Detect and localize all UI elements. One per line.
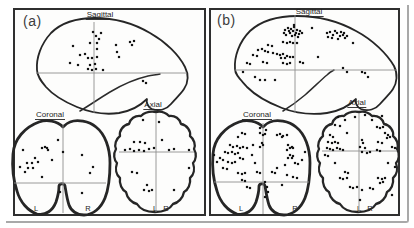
activation-focus-dot (332, 149, 334, 151)
activation-focus-dot (286, 174, 288, 176)
activation-focus-dot (362, 142, 364, 144)
activation-focus-dot (334, 30, 336, 32)
activation-focus-dot (31, 162, 33, 164)
activation-focus-dot (72, 45, 74, 47)
activation-focus-dot (266, 62, 268, 64)
activation-focus-dot (259, 146, 261, 148)
activation-focus-dot (77, 64, 79, 66)
activation-focus-dot (361, 139, 363, 141)
activation-focus-dot (27, 167, 29, 169)
sagittal-brain-outline (37, 18, 188, 114)
activation-focus-dot (95, 68, 97, 70)
activation-focus-dot (264, 181, 266, 183)
activation-focus-dot (293, 26, 295, 28)
activation-focus-dot (387, 162, 389, 164)
activation-focus-dot (271, 45, 273, 47)
activation-focus-dot (287, 27, 289, 29)
activation-focus-dot (359, 199, 361, 201)
activation-focus-dot (41, 147, 43, 149)
activation-focus-dot (144, 142, 146, 144)
activation-focus-dot (143, 150, 145, 152)
activation-focus-dot (299, 61, 301, 63)
activation-focus-dot (329, 31, 331, 33)
activation-focus-dot (94, 63, 96, 65)
activation-focus-dot (292, 30, 294, 32)
activation-focus-dot (283, 32, 285, 34)
activation-focus-dot (344, 171, 346, 173)
activation-focus-dot (384, 177, 386, 179)
activation-focus-dot (391, 146, 393, 148)
activation-focus-dot (301, 32, 303, 34)
activation-focus-dot (289, 147, 291, 149)
activation-focus-dot (344, 37, 346, 39)
activation-focus-dot (332, 136, 334, 138)
activation-focus-dot (340, 31, 342, 33)
activation-focus-dot (138, 149, 140, 151)
activation-focus-dot (292, 42, 294, 44)
activation-focus-dot (354, 116, 356, 118)
activation-focus-dot (287, 144, 289, 146)
activation-focus-dot (242, 158, 244, 160)
activation-focus-dot (146, 184, 148, 186)
activation-focus-dot (259, 172, 261, 174)
activation-focus-dot (280, 57, 282, 59)
activation-focus-dot (161, 139, 163, 141)
activation-focus-dot (334, 124, 336, 126)
activation-focus-dot (288, 30, 290, 32)
activation-focus-dot (98, 38, 100, 40)
activation-focus-dot (286, 149, 288, 151)
activation-focus-dot (224, 151, 226, 153)
activation-focus-dot (22, 149, 24, 151)
panel-b-sagittal-dots (235, 15, 397, 113)
activation-focus-dot (394, 166, 396, 168)
activation-focus-dot (237, 136, 239, 138)
activation-focus-dot (389, 136, 391, 138)
activation-focus-dot (311, 27, 313, 29)
activation-focus-dot (279, 54, 281, 56)
activation-focus-dot (334, 162, 336, 164)
activation-focus-dot (143, 189, 145, 191)
activation-focus-dot (293, 24, 295, 26)
activation-focus-dot (188, 149, 190, 151)
activation-focus-dot (361, 71, 363, 73)
activation-focus-dot (324, 154, 326, 156)
activation-focus-dot (331, 37, 333, 39)
activation-focus-dot (84, 53, 86, 55)
activation-focus-dot (346, 132, 348, 134)
activation-focus-dot (352, 42, 354, 44)
activation-focus-dot (381, 115, 383, 117)
activation-focus-dot (364, 72, 366, 74)
activation-focus-dot (153, 147, 155, 149)
activation-focus-dot (92, 166, 94, 168)
activation-focus-dot (394, 147, 396, 149)
activation-focus-dot (227, 161, 229, 163)
activation-focus-dot (267, 44, 269, 46)
activation-focus-dot (329, 134, 331, 136)
activation-focus-dot (337, 116, 339, 118)
activation-focus-dot (342, 149, 344, 151)
activation-focus-dot (131, 44, 133, 46)
activation-focus-dot (346, 71, 348, 73)
activation-focus-dot (336, 147, 338, 149)
activation-focus-dot (222, 159, 224, 161)
activation-focus-dot (261, 48, 263, 50)
activation-focus-dot (297, 36, 299, 38)
activation-focus-dot (259, 132, 261, 134)
activation-focus-dot (289, 41, 291, 43)
activation-focus-dot (266, 186, 268, 188)
activation-focus-dot (329, 148, 331, 150)
activation-focus-dot (304, 151, 306, 153)
activation-focus-dot (359, 146, 361, 148)
axial-brain-outline (317, 112, 399, 212)
activation-focus-dot (391, 194, 393, 196)
activation-focus-dot (356, 186, 358, 188)
activation-focus-dot (294, 34, 296, 36)
activation-focus-dot (115, 44, 117, 46)
activation-focus-dot (87, 68, 89, 70)
activation-focus-dot (244, 180, 246, 182)
activation-focus-dot (257, 49, 259, 51)
activation-focus-dot (271, 171, 273, 173)
activation-focus-dot (290, 28, 292, 30)
activation-focus-dot (142, 80, 144, 82)
activation-focus-dot (296, 29, 298, 31)
